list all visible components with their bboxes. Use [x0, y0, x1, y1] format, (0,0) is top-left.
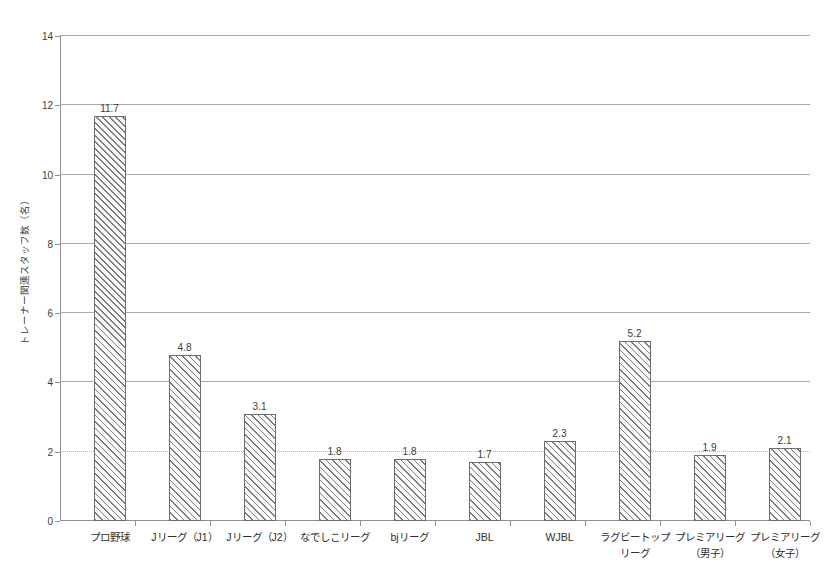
- x-axis-category-label: プレミアリーグ （女子）: [747, 529, 822, 561]
- x-tick-mark: [510, 521, 511, 526]
- plot-area: 02468101214 11.74.83.11.81.81.72.35.21.9…: [60, 36, 810, 521]
- bar: 3.1: [244, 414, 276, 521]
- x-axis-category-label: プロ野球: [72, 529, 147, 545]
- bar-value-label: 2.3: [553, 428, 567, 439]
- bar-chart-figure: トレーナー関連スタッフ数（名） 02468101214 11.74.83.11.…: [0, 0, 838, 586]
- bar: 1.9: [694, 455, 726, 521]
- bar: 1.8: [394, 459, 426, 521]
- bar: 5.2: [619, 341, 651, 521]
- bar-value-label: 3.1: [253, 401, 267, 412]
- y-tick-mark: [55, 452, 60, 453]
- x-axis-category-label: JBL: [447, 529, 522, 545]
- bar: 11.7: [94, 116, 126, 521]
- bar: 1.8: [319, 459, 351, 521]
- gridline: [60, 104, 810, 105]
- x-tick-mark: [135, 521, 136, 526]
- bar: 1.7: [469, 462, 501, 521]
- x-axis-category-label: なでしこリーグ: [297, 529, 372, 545]
- y-tick-label: 14: [42, 31, 53, 42]
- y-axis-title: トレーナー関連スタッフ数（名）: [14, 160, 36, 380]
- gridline: [60, 312, 810, 313]
- y-tick-mark: [55, 244, 60, 245]
- x-tick-mark: [660, 521, 661, 526]
- y-tick-label: 2: [47, 446, 53, 457]
- y-tick-label: 12: [42, 100, 53, 111]
- bar-value-label: 1.8: [403, 446, 417, 457]
- gridline: [60, 35, 810, 36]
- y-tick-label: 0: [47, 516, 53, 527]
- x-tick-mark: [285, 521, 286, 526]
- x-axis-category-label: bjリーグ: [372, 529, 447, 545]
- x-tick-mark: [360, 521, 361, 526]
- bar: 2.3: [544, 441, 576, 521]
- y-tick-label: 8: [47, 238, 53, 249]
- x-axis-category-label: プレミアリーグ （男子）: [672, 529, 747, 561]
- bar-value-label: 11.7: [100, 103, 119, 114]
- x-tick-mark: [735, 521, 736, 526]
- y-tick-mark: [55, 521, 60, 522]
- y-tick-label: 6: [47, 308, 53, 319]
- x-tick-mark: [435, 521, 436, 526]
- bar: 2.1: [769, 448, 801, 521]
- bar-value-label: 1.8: [328, 446, 342, 457]
- bar-value-label: 4.8: [178, 342, 192, 353]
- bar-value-label: 1.7: [478, 449, 492, 460]
- y-tick-mark: [55, 382, 60, 383]
- x-tick-mark: [810, 521, 811, 526]
- x-axis-category-label: Jリーグ（J2）: [222, 529, 297, 545]
- y-tick-mark: [55, 105, 60, 106]
- bar-value-label: 5.2: [628, 328, 642, 339]
- y-axis-line: [60, 36, 61, 521]
- bar-value-label: 2.1: [778, 435, 792, 446]
- bar-value-label: 1.9: [703, 442, 717, 453]
- x-axis-category-label: Jリーグ（J1）: [147, 529, 222, 545]
- x-tick-mark: [585, 521, 586, 526]
- y-tick-mark: [55, 175, 60, 176]
- x-tick-mark: [210, 521, 211, 526]
- y-tick-mark: [55, 313, 60, 314]
- x-axis-category-label: WJBL: [522, 529, 597, 545]
- y-tick-label: 10: [42, 169, 53, 180]
- y-tick-mark: [55, 36, 60, 37]
- y-tick-label: 4: [47, 377, 53, 388]
- gridline: [60, 243, 810, 244]
- bar: 4.8: [169, 355, 201, 521]
- x-axis-category-label: ラグビートップ リーグ: [597, 529, 672, 561]
- gridline: [60, 174, 810, 175]
